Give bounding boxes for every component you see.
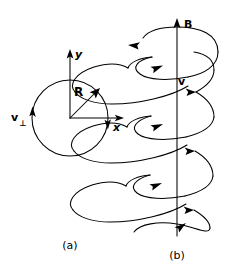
helix-turn-2-right-arc [186,117,214,137]
helix-turn-1-right-descend [196,70,214,92]
helix-turn-2-front-arc [74,145,187,163]
helix-turn-0-arrowhead [128,42,140,49]
helix-turn-4-tail-arc [134,223,210,232]
helix-turn-3-right-arc [185,176,213,196]
helix-turn-1-back-arrowhead [151,66,164,74]
v-perp-label: v [11,111,19,124]
helix-turn-3-left-arc [70,182,126,210]
helix-turn-1-front-arc [75,86,188,104]
v-perp-subscript: ⊥ [19,119,26,128]
helix-turn-3-front-arc [73,204,186,222]
physics-figure: y x R v ⊥ (a) B [0,0,239,266]
helix-turn-2-back-arrowhead [151,124,164,132]
helix-turn-2-right-descend [196,92,214,117]
panel-b-group: B v [70,18,218,262]
helix-turn-1-velocity-arrowhead [186,88,196,96]
velocity-label-b: v [178,75,186,88]
helix-turn-4-right-descend [194,210,210,228]
helix-turn-3-front-arrowhead [184,206,194,214]
helix-turn-2-front-arrowhead [185,147,195,155]
helix-turn-3-back-arrowhead [150,183,163,191]
panel-a-group: y x R v ⊥ (a) [11,48,124,252]
b-field-label: B [184,18,192,31]
helix-turn-2-back-arc [134,116,186,139]
figure-canvas: y x R v ⊥ (a) B [0,0,239,266]
helix-turn-0-back-arc [143,27,218,52]
y-axis-label: y [75,48,83,61]
caption-panel-b: (b) [169,249,185,262]
helix-turn-3-right-descend [195,151,213,176]
helix-turn-1-back-arc-left [128,57,152,68]
caption-panel-a: (a) [62,239,77,252]
